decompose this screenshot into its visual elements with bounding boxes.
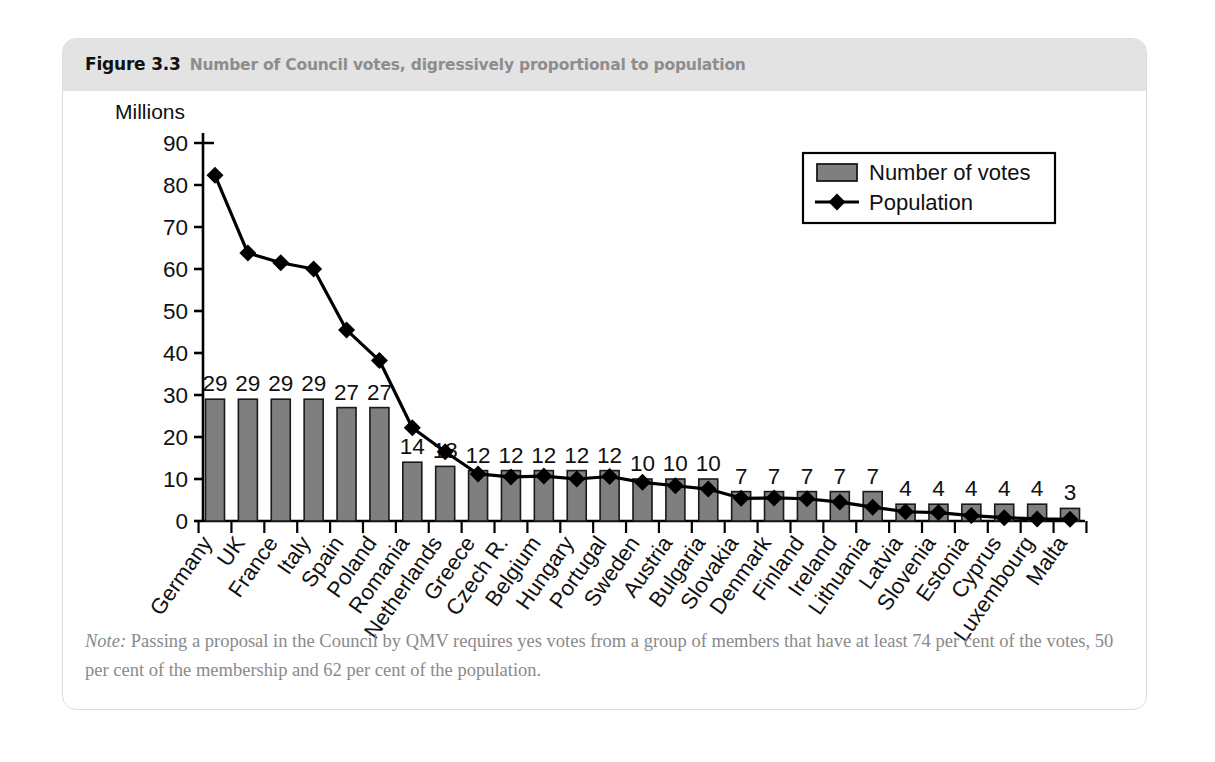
y-axis-tick-label: 0 xyxy=(175,509,188,534)
bar-value-label: 4 xyxy=(932,476,945,501)
population-marker[interactable] xyxy=(272,254,289,271)
bar-value-label: 29 xyxy=(301,371,326,396)
bar-value-label: 4 xyxy=(965,476,978,501)
bar-value-label: 27 xyxy=(334,380,359,405)
bar-value-label: 7 xyxy=(866,464,879,489)
population-marker[interactable] xyxy=(305,261,322,278)
population-marker[interactable] xyxy=(239,245,256,262)
bar-uk[interactable] xyxy=(238,399,257,521)
bar-value-label: 12 xyxy=(531,443,556,468)
figure-container: Figure 3.3Number of Council votes, digre… xyxy=(62,38,1147,710)
bar-value-label: 12 xyxy=(498,443,523,468)
bar-value-label: 4 xyxy=(899,476,912,501)
bar-value-label: 12 xyxy=(597,443,622,468)
bar-value-label: 7 xyxy=(834,464,847,489)
y-axis-tick-label: 20 xyxy=(163,425,188,450)
bar-value-label: 29 xyxy=(202,371,227,396)
bar-value-label: 7 xyxy=(768,464,781,489)
chart-plot-area: Millions 0102030405060708090 29292929272… xyxy=(63,91,1147,646)
bar-value-label: 29 xyxy=(268,371,293,396)
bar-value-label: 3 xyxy=(1064,480,1077,505)
bar-poland[interactable] xyxy=(370,408,389,521)
y-axis-tick-label: 60 xyxy=(163,257,188,282)
y-axis-tick-label: 50 xyxy=(163,299,188,324)
council-votes-chart: Millions 0102030405060708090 29292929272… xyxy=(63,91,1147,646)
bar-value-label: 4 xyxy=(1031,476,1044,501)
figure-caption: Number of Council votes, digressively pr… xyxy=(190,56,746,74)
population-marker[interactable] xyxy=(207,167,224,184)
y-axis-tick-label: 90 xyxy=(163,131,188,156)
legend-label-population: Population xyxy=(869,190,973,215)
y-axis-tick-label: 30 xyxy=(163,383,188,408)
figure-number: Figure 3.3 xyxy=(85,54,181,74)
bar-value-label: 10 xyxy=(663,451,688,476)
bar-value-label: 12 xyxy=(564,443,589,468)
legend-label-votes: Number of votes xyxy=(869,160,1030,185)
bar-netherlands[interactable] xyxy=(436,466,455,521)
y-axis-tick-label: 80 xyxy=(163,173,188,198)
bar-value-label: 7 xyxy=(801,464,814,489)
bar-italy[interactable] xyxy=(304,399,323,521)
bar-romania[interactable] xyxy=(403,462,422,521)
note-text: Passing a proposal in the Council by QMV… xyxy=(85,631,1113,680)
figure-header-band: Figure 3.3Number of Council votes, digre… xyxy=(63,39,1146,91)
bar-value-label: 7 xyxy=(735,464,748,489)
figure-note: Note: Passing a proposal in the Council … xyxy=(85,627,1125,684)
bar-spain[interactable] xyxy=(337,408,356,521)
bar-value-label: 27 xyxy=(367,380,392,405)
bar-france[interactable] xyxy=(271,399,290,521)
bar-value-label: 14 xyxy=(400,434,425,459)
bar-value-label: 10 xyxy=(630,451,655,476)
bar-germany[interactable] xyxy=(206,399,225,521)
bar-value-label: 4 xyxy=(998,476,1011,501)
bar-value-label: 10 xyxy=(696,451,721,476)
legend-swatch-votes xyxy=(817,164,857,181)
axis-title-millions: Millions xyxy=(115,100,185,123)
x-axis-label-germany: Germany xyxy=(145,532,217,620)
figure-title: Figure 3.3Number of Council votes, digre… xyxy=(85,54,746,74)
bar-value-label: 12 xyxy=(466,443,491,468)
y-axis-tick-label: 10 xyxy=(163,467,188,492)
bar-value-label: 29 xyxy=(235,371,260,396)
y-axis-tick-label: 40 xyxy=(163,341,188,366)
note-label: Note: xyxy=(85,631,126,651)
y-axis-tick-label: 70 xyxy=(163,215,188,240)
